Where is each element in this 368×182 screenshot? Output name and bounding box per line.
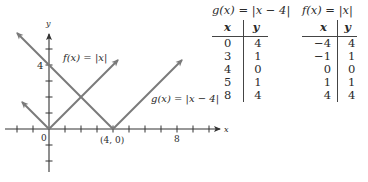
g-col-y: y [244, 20, 268, 37]
y-axis-label: y [45, 19, 51, 28]
f-x-cell: −1 [302, 50, 337, 63]
x-axis-label: x [224, 125, 229, 134]
g-y-cell: 4 [244, 89, 268, 102]
g-value-table: g(x) = |x − 4| x y 04 31 40 51 84 [212, 2, 290, 102]
f-x-cell: −4 [302, 37, 337, 51]
g-x-cell: 8 [212, 89, 244, 102]
table-row: −44 [302, 37, 357, 51]
f-value-table: f(x) = |x| x y −44 −11 00 11 44 [302, 2, 357, 102]
g-table-title: g(x) = |x − 4| [212, 2, 290, 18]
f-x-cell: 4 [302, 89, 337, 102]
f-y-cell: 4 [337, 89, 357, 102]
f-function-label: f(x) = |x| [62, 52, 107, 64]
g-table: x y 04 31 40 51 84 [212, 20, 268, 102]
g-function-label: g(x) = |x − 4| [151, 93, 219, 105]
g-col-x: x [212, 20, 244, 37]
f-y-cell: 4 [337, 37, 357, 51]
absolute-value-graph: x y 0 8 4 (4, 0) f(x) = |x| g(x) = |x − … [0, 0, 230, 182]
table-row: 04 [212, 37, 268, 51]
f-table: x y −44 −11 00 11 44 [302, 20, 357, 102]
y-tick-label-4: 4 [37, 60, 43, 71]
f-table-title: f(x) = |x| [302, 2, 357, 18]
table-row: 84 [212, 89, 268, 102]
f-col-x: x [302, 20, 337, 37]
g-abs-x-minus-4-line [17, 33, 182, 129]
table-row: 44 [302, 89, 357, 102]
vertex-label: (4, 0) [100, 135, 124, 145]
g-y-cell: 4 [244, 37, 268, 51]
f-col-y: y [337, 20, 357, 37]
origin-label: 0 [41, 133, 47, 143]
f-x-cell: 1 [302, 76, 337, 89]
x-tick-label-8: 8 [174, 134, 180, 144]
f-x-cell: 0 [302, 63, 337, 76]
g-x-cell: 0 [212, 37, 244, 51]
y-axis: y [45, 19, 53, 172]
